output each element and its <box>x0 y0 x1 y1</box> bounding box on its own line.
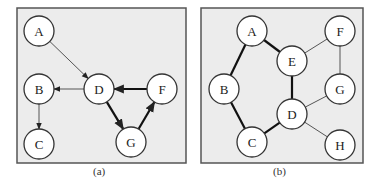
svg-text:B: B <box>35 82 44 97</box>
node-A: A <box>237 16 267 46</box>
node-A: A <box>24 16 54 46</box>
svg-text:C: C <box>35 137 44 152</box>
graph-canvas: ABCDFGAEFBGDCH <box>0 0 376 185</box>
node-F: F <box>147 74 177 104</box>
svg-text:B: B <box>220 82 229 97</box>
node-B: B <box>24 74 54 104</box>
svg-text:A: A <box>247 24 257 39</box>
svg-text:F: F <box>158 82 165 97</box>
caption-a: (a) <box>93 165 105 177</box>
svg-text:D: D <box>287 107 296 122</box>
node-E: E <box>277 46 307 76</box>
caption-b: (b) <box>273 165 286 177</box>
svg-text:F: F <box>336 24 343 39</box>
svg-text:C: C <box>248 135 257 150</box>
node-F: F <box>325 16 355 46</box>
svg-text:D: D <box>94 82 103 97</box>
svg-text:G: G <box>126 135 135 150</box>
node-H: H <box>325 130 355 160</box>
node-G: G <box>325 74 355 104</box>
svg-text:E: E <box>288 54 296 69</box>
node-G: G <box>116 127 146 157</box>
svg-text:A: A <box>34 24 44 39</box>
node-C: C <box>237 127 267 157</box>
svg-text:H: H <box>335 138 344 153</box>
svg-text:G: G <box>335 82 344 97</box>
node-D: D <box>277 99 307 129</box>
node-D: D <box>84 74 114 104</box>
node-C: C <box>24 129 54 159</box>
node-B: B <box>209 74 239 104</box>
